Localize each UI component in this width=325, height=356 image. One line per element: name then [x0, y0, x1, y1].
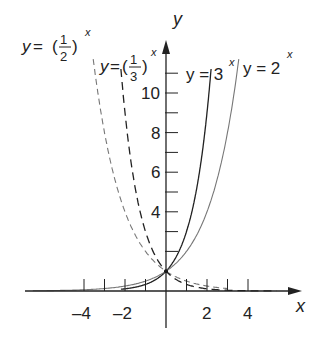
svg-text:y: y [21, 37, 32, 56]
svg-text:=: = [110, 57, 120, 76]
svg-text:2: 2 [60, 49, 67, 64]
svg-text:3: 3 [130, 69, 137, 84]
svg-text:y = 3: y = 3 [186, 65, 223, 84]
y-tick-label: 8 [151, 124, 160, 143]
label-half-power: y = ( 1 2 ) x [21, 26, 91, 64]
y-tick-label: 10 [141, 84, 160, 103]
svg-text:y = 2: y = 2 [243, 59, 280, 78]
curve-two-power [33, 59, 239, 291]
ticks: –4–22446810 [72, 73, 252, 323]
y-tick-label: 6 [151, 163, 160, 182]
x-axis-arrow-icon [288, 287, 302, 295]
svg-text:(: ( [122, 57, 128, 76]
svg-text:): ) [142, 57, 148, 76]
x-tick-label: –4 [72, 304, 91, 323]
svg-text:x: x [84, 26, 91, 38]
label-third-power: y = ( 1 3 ) x [99, 46, 157, 84]
svg-text:x: x [150, 46, 157, 58]
axes [25, 40, 302, 328]
label-three-power: y = 3 x [186, 56, 235, 84]
svg-text:=: = [33, 37, 43, 56]
svg-text:1: 1 [130, 52, 137, 67]
y-axis-arrow-icon [162, 40, 170, 54]
svg-text:x: x [228, 56, 235, 68]
svg-text:): ) [72, 37, 78, 56]
x-tick-label: 2 [202, 304, 211, 323]
svg-text:y: y [99, 57, 110, 76]
x-tick-label: 4 [243, 304, 252, 323]
svg-text:1: 1 [60, 32, 67, 47]
label-two-power: y = 2 x [243, 48, 293, 78]
y-axis-label: y [171, 9, 183, 29]
x-axis-label: x [295, 296, 306, 316]
y-tick-label: 4 [151, 203, 160, 222]
exponential-functions-plot: –4–22446810 y x y = ( 1 2 ) x y = ( 1 3 … [0, 0, 325, 356]
svg-text:x: x [286, 48, 293, 60]
x-tick-label: –2 [113, 304, 132, 323]
svg-text:(: ( [52, 37, 58, 56]
